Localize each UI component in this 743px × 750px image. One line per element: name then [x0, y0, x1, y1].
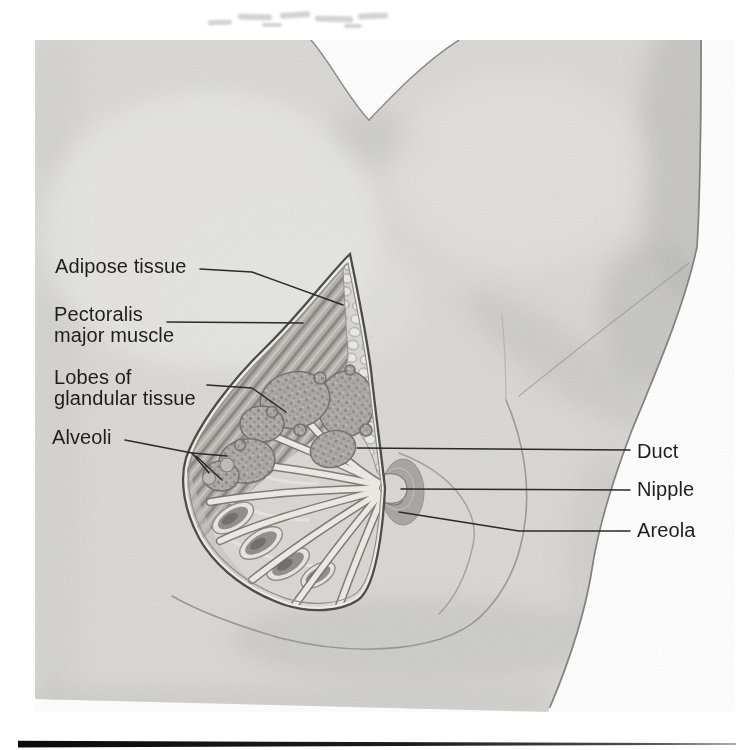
- pectoralis-leader-line: [167, 322, 303, 323]
- label-nipple: Nipple: [637, 479, 694, 500]
- label-alveoli: Alveoli: [52, 427, 112, 448]
- bottom-page-rule: [18, 741, 736, 748]
- label-adipose-tissue: Adipose tissue: [55, 256, 186, 277]
- nipple-leader-line: [401, 489, 630, 490]
- label-pectoralis-major: Pectoralis major muscle: [54, 304, 174, 346]
- label-areola: Areola: [637, 520, 695, 541]
- illustration-frame: [35, 0, 738, 712]
- scanned-textbook-page: Adipose tissue Pectoralis major muscle L…: [0, 0, 743, 750]
- label-duct: Duct: [637, 441, 679, 462]
- label-glandular-lobes: Lobes of glandular tissue: [54, 367, 196, 409]
- bleed-through-text-marks: [208, 11, 388, 28]
